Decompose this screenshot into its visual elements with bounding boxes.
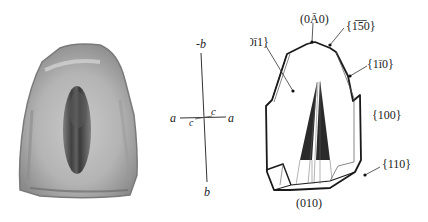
axis-label-a-left: a <box>170 111 176 125</box>
face-label-1-5bar-0: {1̅5̅0} <box>346 19 376 33</box>
axis-label-c-upper: c <box>211 105 216 117</box>
axis-label-neg-b: -b <box>196 37 206 51</box>
face-label-010: (010) <box>296 196 322 210</box>
axis-label-a-right: a <box>228 111 234 125</box>
face-label-0-1bar-0: (0Ā0) <box>300 12 329 26</box>
crystal-svg: (0Ā0) {1̅5̅0} {0ī1} {1ī0} {100} {110} (0… <box>250 0 428 222</box>
crystal-photo-image <box>0 0 150 222</box>
face-label-1-1bar-0: {1ī0} <box>367 57 394 71</box>
axes-diagram: -b b a a c c <box>150 0 250 222</box>
face-label-100: {100} <box>372 108 402 122</box>
face-label-110: {110} <box>382 157 411 171</box>
axis-label-b: b <box>204 185 210 199</box>
axis-label-c-lower: c <box>189 117 194 128</box>
axes-svg: -b b a a c c <box>150 0 250 222</box>
face-label-0-1bar-1: {0ī1} <box>250 35 269 49</box>
crystal-morphology-drawing: (0Ā0) {1̅5̅0} {0ī1} {1ī0} {100} {110} (0… <box>250 0 428 222</box>
crystal-photo <box>0 0 150 222</box>
